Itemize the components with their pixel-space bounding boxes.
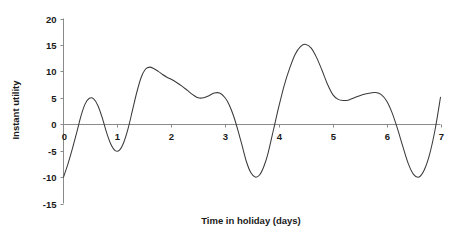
x-axis-title: Time in holiday (days) — [201, 215, 301, 226]
x-tick-label-group: 01234567 — [62, 131, 444, 142]
y-tick-label: 15 — [46, 40, 57, 51]
x-tick-label: 2 — [169, 131, 174, 142]
x-tick-label: 7 — [439, 131, 444, 142]
x-tick-label: 1 — [115, 131, 121, 142]
x-tick-label: 0 — [62, 131, 67, 142]
line-chart: 20151050-5-10-15 01234567 Time in holida… — [0, 0, 459, 239]
data-series-line — [64, 44, 441, 177]
y-tick-label: -10 — [43, 172, 57, 183]
y-tick-label: 5 — [51, 93, 57, 104]
x-tick-label: 4 — [277, 131, 283, 142]
x-tick-label: 3 — [223, 131, 228, 142]
x-tick-label: 6 — [385, 131, 390, 142]
y-tick-label: 20 — [46, 14, 57, 25]
y-tick-label: 0 — [51, 119, 56, 130]
chart-container: 20151050-5-10-15 01234567 Time in holida… — [0, 0, 459, 239]
x-tick-label: 5 — [331, 131, 337, 142]
y-tick-label-group: 20151050-5-10-15 — [43, 14, 57, 210]
y-tick-label: 10 — [46, 66, 57, 77]
y-tick-label: -5 — [48, 146, 57, 157]
y-tick-label: -15 — [43, 199, 57, 210]
y-axis-title: Instant utility — [10, 80, 21, 140]
